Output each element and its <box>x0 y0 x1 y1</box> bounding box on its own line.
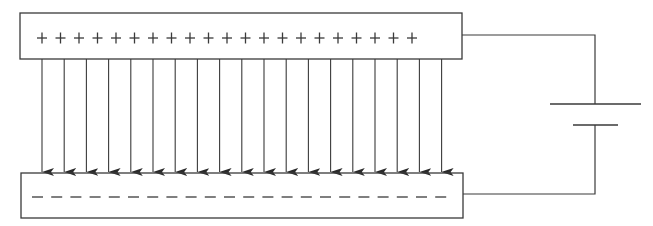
plus-sign-icon <box>204 33 214 44</box>
plus-sign-icon <box>241 33 251 44</box>
plus-sign-icon <box>74 33 84 44</box>
plus-sign-icon <box>315 33 325 44</box>
plus-sign-icon <box>370 33 380 44</box>
positive-charges <box>37 33 417 44</box>
plus-sign-icon <box>296 33 306 44</box>
plus-sign-icon <box>93 33 103 44</box>
plus-sign-icon <box>37 33 47 44</box>
plus-sign-icon <box>333 33 343 44</box>
positive-plate <box>20 13 462 59</box>
top-wire <box>462 35 595 104</box>
negative-plate <box>21 173 463 218</box>
battery-icon <box>550 104 641 125</box>
capacitor-diagram <box>0 0 653 226</box>
plus-sign-icon <box>111 33 121 44</box>
electric-field-lines <box>42 59 442 172</box>
plus-sign-icon <box>148 33 158 44</box>
plus-sign-icon <box>222 33 232 44</box>
plus-sign-icon <box>407 33 417 44</box>
plus-sign-icon <box>167 33 177 44</box>
plus-sign-icon <box>259 33 269 44</box>
plus-sign-icon <box>352 33 362 44</box>
plus-sign-icon <box>278 33 288 44</box>
plus-sign-icon <box>185 33 195 44</box>
plus-sign-icon <box>56 33 66 44</box>
plus-sign-icon <box>130 33 140 44</box>
bottom-wire <box>463 125 595 194</box>
plus-sign-icon <box>389 33 399 44</box>
